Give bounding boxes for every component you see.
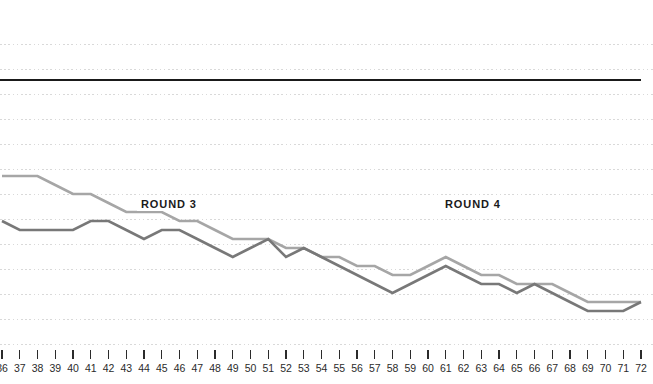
- x-axis-tick-labels: 3637383940414243444546474849505152535455…: [0, 0, 653, 384]
- annotation-round-3: ROUND 3: [137, 197, 201, 211]
- annotation-round-4: ROUND 4: [441, 197, 505, 211]
- x-tick-label: 72: [631, 362, 651, 374]
- chart-container: 3637383940414243444546474849505152535455…: [0, 0, 653, 384]
